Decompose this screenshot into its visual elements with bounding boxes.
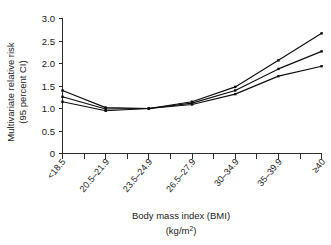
y-tick-label-6: 3.0 [42, 13, 55, 24]
y-axis-ticks: 0 0.5 1.0 1.5 2.0 2.5 3.0 [42, 13, 63, 159]
y-axis-title-line1: Multivariate relative risk [5, 42, 16, 141]
y-tick-label-0: 0 [50, 148, 55, 159]
data-point-s2-1 [104, 110, 106, 112]
data-point-s1-4 [234, 89, 236, 91]
x-tick-label-5: 35–39.9 [255, 157, 284, 188]
data-point-s2-6 [320, 65, 322, 67]
y-axis-title-line2: (95 percent CI) [17, 60, 28, 123]
data-series-layer [61, 32, 323, 112]
y-tick-label-1: 0.5 [42, 126, 55, 137]
relative-risk-line-chart: Multivariate relative risk (95 percent C… [0, 0, 331, 245]
data-point-s2-3 [191, 103, 193, 105]
x-tick-label-6: ≥40 [310, 157, 327, 175]
data-point-s1-6 [320, 50, 322, 52]
chart-figure: Multivariate relative risk (95 percent C… [0, 0, 331, 245]
data-point-s2-2 [148, 107, 150, 109]
data-point-s0-6 [320, 32, 322, 34]
x-axis-units: (kg/m2) [166, 225, 197, 236]
data-point-s1-0 [61, 96, 63, 98]
x-axis-ticks [63, 154, 322, 159]
data-point-s0-4 [234, 86, 236, 88]
data-point-s2-4 [234, 93, 236, 95]
y-tick-label-3: 1.5 [42, 81, 55, 92]
x-tick-label-0: <18.5 [45, 157, 67, 181]
x-tick-label-3: 26.5–27.9 [164, 157, 197, 194]
data-point-s1-5 [277, 68, 279, 70]
y-tick-label-5: 2.5 [42, 36, 55, 47]
x-axis-title: Body mass index (BMI) [132, 210, 230, 221]
y-tick-label-4: 2.0 [42, 58, 55, 69]
data-point-s2-0 [61, 101, 63, 103]
data-point-s2-5 [277, 75, 279, 77]
x-tick-label-2: 23.5–24.9 [121, 157, 154, 194]
series-line-0 [63, 33, 322, 108]
y-tick-label-2: 1.0 [42, 103, 55, 114]
x-axis-units-close: ) [193, 225, 196, 236]
x-axis-tick-labels: <18.5 20.5–21.9 23.5–24.9 26.5–27.9 30–3… [45, 157, 327, 194]
data-point-s0-0 [61, 89, 63, 91]
x-tick-label-1: 20.5–21.9 [78, 157, 111, 194]
x-axis-units-base: (kg/m [166, 225, 190, 236]
series-line-1 [63, 51, 322, 109]
data-point-s0-5 [277, 59, 279, 61]
x-tick-label-4: 30–34.9 [212, 157, 241, 188]
